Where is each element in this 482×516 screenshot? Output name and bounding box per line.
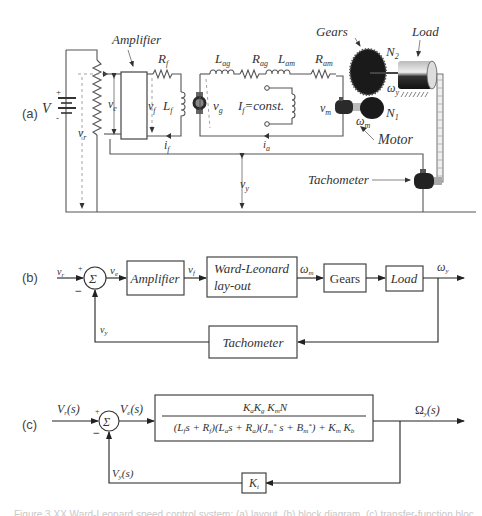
svg-text:N2: N2 — [385, 44, 399, 61]
transfer-denominator: (Lfs + Rf)(Las + Ra)(Jm* s + Bm*) + Km K… — [174, 421, 355, 435]
svg-text:Ωy(s): Ωy(s) — [415, 403, 440, 418]
svg-text:+: + — [56, 87, 61, 97]
svg-text:Ve(s): Ve(s) — [120, 402, 143, 417]
svg-text:vy: vy — [240, 177, 249, 193]
svg-text:Tachometer: Tachometer — [223, 335, 285, 350]
motor-label: Motor — [377, 132, 414, 147]
svg-text:Ram: Ram — [314, 51, 333, 68]
amplifier-label: Amplifier — [111, 32, 162, 47]
svg-text:N1: N1 — [385, 105, 399, 122]
svg-text:Load: Load — [390, 271, 418, 286]
inductor-Lam — [266, 70, 311, 74]
svg-text:vf: vf — [188, 263, 196, 277]
svg-text:Amplifier: Amplifier — [129, 271, 180, 286]
svg-text:Gears: Gears — [330, 271, 360, 286]
svg-text:ωy: ωy — [387, 81, 399, 97]
amplifier-box — [121, 72, 147, 139]
panel-a-circuit: (a) + - V vr Amplifier ve — [22, 24, 476, 212]
resistor-Rf — [153, 70, 181, 92]
svg-text:Lag: Lag — [214, 51, 230, 68]
svg-text:Lf: Lf — [162, 98, 174, 115]
tachometer-label: Tachometer — [308, 172, 370, 187]
svg-text:if: if — [164, 138, 171, 154]
load-icon — [398, 61, 437, 97]
figure-caption: Figure 3.XX Ward-Leonard speed control s… — [14, 508, 474, 516]
potentiometer-resistor — [93, 60, 101, 135]
svg-text:Vr(s): Vr(s) — [57, 402, 80, 417]
transfer-numerator: KaKg KmN — [242, 401, 288, 415]
svg-text:Vy(s): Vy(s) — [112, 467, 134, 481]
svg-text:lay-out: lay-out — [214, 278, 251, 293]
panel-b-tag: (b) — [22, 270, 38, 285]
svg-text:Rf: Rf — [157, 51, 170, 68]
battery-icon — [58, 98, 76, 113]
gears-label: Gears — [316, 24, 348, 39]
svg-text:If=const.: If=const. — [237, 98, 284, 115]
svg-text:vy: vy — [100, 324, 108, 337]
svg-text:−: − — [93, 426, 100, 440]
panel-c-tag: (c) — [22, 417, 37, 432]
motor-icon — [335, 97, 361, 114]
panel-b-block-diagram: (b) vr + Σ − ve Amplifier vf Ward-Leonar… — [22, 257, 464, 358]
svg-text:ωy: ωy — [437, 260, 449, 275]
svg-text:vg: vg — [213, 98, 223, 115]
svg-text:ve: ve — [110, 264, 118, 278]
svg-text:Ward-Leonard: Ward-Leonard — [214, 261, 290, 276]
svg-text:vr: vr — [78, 126, 87, 142]
svg-text:vm: vm — [320, 101, 331, 117]
label-V: V — [42, 101, 52, 116]
svg-text:+: + — [95, 407, 100, 416]
svg-text:Σ: Σ — [88, 271, 97, 286]
resistor-Ram — [311, 70, 336, 78]
svg-text:−: − — [75, 284, 82, 298]
resistor-Rag — [240, 70, 266, 78]
svg-text:ve: ve — [108, 97, 117, 113]
svg-text:ωm: ωm — [300, 262, 314, 277]
load-label: Load — [411, 24, 439, 39]
panel-a-tag: (a) — [22, 106, 38, 121]
svg-text:-: - — [56, 113, 59, 123]
svg-text:Lam: Lam — [277, 51, 295, 68]
svg-text:ia: ia — [263, 138, 270, 153]
svg-text:vf: vf — [148, 99, 157, 115]
svg-text:Σ: Σ — [102, 415, 110, 429]
svg-text:+: + — [78, 264, 83, 273]
svg-text:vr: vr — [57, 266, 64, 279]
panel-c-transfer-function: (c) Vr(s) + Σ − Ve(s) KaKg KmN (Lfs + Rf… — [22, 395, 464, 493]
inductor-Lag — [210, 70, 240, 74]
svg-text:Rag: Rag — [251, 51, 268, 68]
